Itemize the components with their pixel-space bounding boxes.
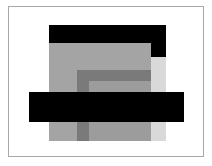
top-black-bar [49,25,166,43]
bottom-black-band [29,92,184,122]
top-black-tab [151,25,166,57]
